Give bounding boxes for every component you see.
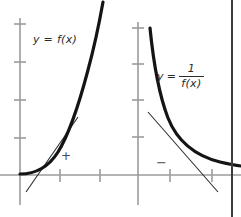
figure-container: y = f(x) y = 1 f(x) + − — [0, 0, 241, 217]
panel-reciprocal-graph — [120, 0, 241, 217]
fraction-numerator: 1 — [184, 63, 199, 76]
right-tangent-line — [148, 112, 218, 192]
minus-sign: − — [156, 155, 167, 170]
fraction: 1 f(x) — [179, 63, 203, 89]
label-reciprocal-lhs: y — [157, 70, 164, 83]
right-plot-svg — [120, 0, 241, 217]
reciprocal-curve — [150, 28, 241, 166]
figure-right-border — [231, 0, 233, 217]
plus-sign: + — [61, 149, 71, 163]
label-function: y = f(x) — [33, 33, 77, 46]
fraction-denominator: f(x) — [179, 77, 203, 90]
label-reciprocal-equals: = — [167, 70, 177, 83]
label-reciprocal: y = 1 f(x) — [157, 63, 204, 89]
